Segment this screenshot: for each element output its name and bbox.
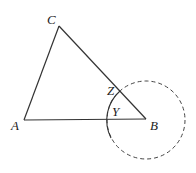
side-CB	[59, 26, 146, 119]
label-A: A	[10, 118, 19, 133]
label-C: C	[47, 12, 56, 27]
label-B: B	[150, 118, 158, 133]
label-Y: Y	[112, 104, 121, 119]
label-Z: Z	[107, 83, 115, 98]
side-AB	[24, 119, 146, 120]
side-AC	[24, 26, 59, 120]
geometry-diagram: C A B Y Z	[0, 0, 196, 173]
